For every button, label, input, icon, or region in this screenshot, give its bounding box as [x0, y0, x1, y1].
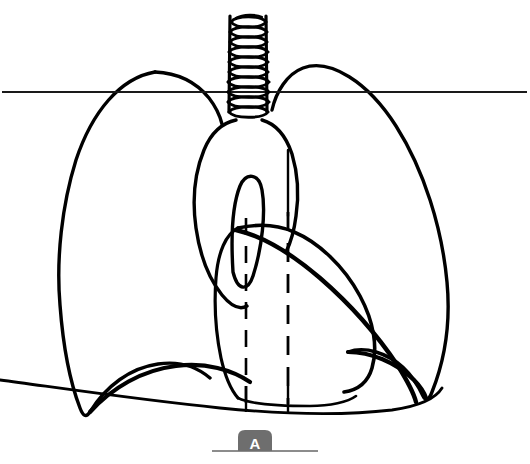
anatomy-illustration: A — [0, 0, 530, 464]
chest-xray-diagram-figure: A — [0, 0, 530, 464]
panel-label-text: A — [250, 435, 261, 452]
panel-label-badge: A — [238, 430, 272, 452]
